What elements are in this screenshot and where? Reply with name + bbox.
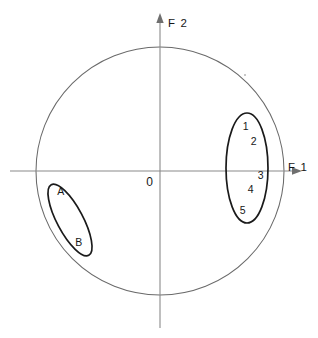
point-label-4: 4 <box>248 183 254 195</box>
point-label-5: 5 <box>240 204 246 216</box>
scan-speck <box>244 74 246 76</box>
point-label-b: B <box>75 236 83 248</box>
factor-plane-figure: F 2 F 1 0 1 2 3 4 5 A B <box>0 0 318 338</box>
point-label-2: 2 <box>251 135 257 147</box>
point-label-a: A <box>57 185 65 197</box>
f2-axis-label: F 2 <box>168 17 188 29</box>
f1-axis-label: F 1 <box>288 161 308 173</box>
point-label-1: 1 <box>243 120 249 132</box>
point-label-3: 3 <box>258 169 264 181</box>
f2-axis-arrowhead <box>156 13 163 23</box>
factor-plane-svg: F 2 F 1 0 1 2 3 4 5 A B <box>0 0 318 338</box>
origin-label: 0 <box>146 175 153 189</box>
left-cluster-outline <box>40 179 101 262</box>
